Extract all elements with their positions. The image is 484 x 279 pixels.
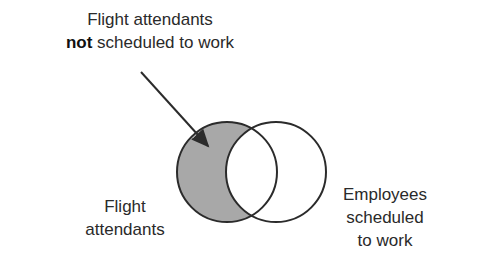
callout-bold-not: not	[66, 33, 92, 52]
right-set-label: Employees scheduled to work	[320, 183, 450, 252]
callout-line2: not scheduled to work	[0, 31, 300, 54]
right-set-line1: Employees	[320, 183, 450, 206]
left-set-label: Flight attendants	[60, 195, 190, 241]
right-set-line3: to work	[320, 229, 450, 252]
callout-line1: Flight attendants	[0, 8, 300, 31]
left-set-line1: Flight	[60, 195, 190, 218]
callout-label: Flight attendants not scheduled to work	[0, 8, 300, 54]
callout-line2-rest: scheduled to work	[92, 33, 234, 52]
left-set-line2: attendants	[60, 218, 190, 241]
right-set-line2: scheduled	[320, 206, 450, 229]
callout-arrow	[141, 72, 208, 146]
